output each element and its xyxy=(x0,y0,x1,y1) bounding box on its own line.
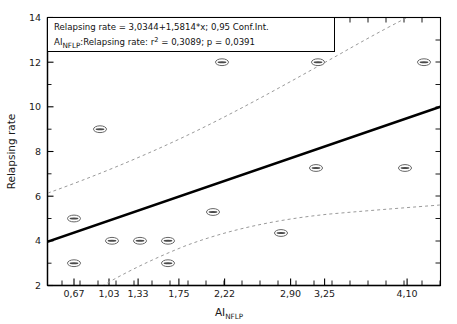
y-tick-label: 4 xyxy=(35,235,41,246)
data-point xyxy=(275,230,288,237)
x-tick-label: 0,67 xyxy=(63,288,84,299)
x-tick-label: 3,25 xyxy=(314,288,335,299)
y-axis-title: Relapsing rate xyxy=(5,114,17,190)
annotation-equation: Relapsing rate = 3,0344+1,5814*x; 0,95 C… xyxy=(54,22,269,32)
data-point xyxy=(207,209,220,216)
data-point xyxy=(312,59,325,66)
x-axis-title-base: AI xyxy=(215,306,225,318)
data-point xyxy=(68,215,81,222)
y-tick-label: 2 xyxy=(35,280,41,291)
y-tick-label: 12 xyxy=(29,57,41,68)
data-point xyxy=(399,165,412,172)
x-tick-label: 1,75 xyxy=(168,288,189,299)
scatter-plot-figure: 2 4 6 8 10 12 14 Relapsing rate xyxy=(0,0,457,324)
data-point xyxy=(94,126,107,133)
annotation-stats-rest: :Relapsing rate: r xyxy=(80,37,154,47)
x-tick-label: 1,33 xyxy=(128,288,149,299)
confidence-band-lower xyxy=(92,205,440,292)
x-axis-minor-ticks xyxy=(62,281,440,286)
y-tick-label: 10 xyxy=(29,101,41,112)
x-tick-label: 2,22 xyxy=(214,288,235,299)
x-tick-label: 1,03 xyxy=(98,288,119,299)
data-point xyxy=(106,237,119,244)
annotation-stats-prefix: AI xyxy=(54,37,62,47)
data-points xyxy=(68,59,431,267)
y-tick-label: 6 xyxy=(35,191,41,202)
y-tick-label: 8 xyxy=(35,146,41,157)
data-point xyxy=(162,260,175,267)
data-point xyxy=(162,237,175,244)
x-axis-title-subscript: NFLP xyxy=(225,312,244,321)
chart-svg: 2 4 6 8 10 12 14 Relapsing rate xyxy=(0,0,457,324)
plot-frame xyxy=(48,18,441,286)
right-frame-ticks xyxy=(436,40,441,263)
data-point xyxy=(216,59,229,66)
data-point xyxy=(68,260,81,267)
y-axis-tick-labels: 2 4 6 8 10 12 14 xyxy=(29,12,41,291)
data-point xyxy=(310,165,323,172)
x-axis-tick-labels: 0,67 1,03 1,33 1,75 2,22 2,90 3,25 4,10 xyxy=(63,288,417,299)
x-tick-label: 2,90 xyxy=(280,288,301,299)
data-point xyxy=(134,237,147,244)
regression-line xyxy=(48,107,441,242)
annotation-stats-subscript: NFLP xyxy=(62,41,81,50)
annotation-stats-tail: = 0,3089; p = 0,0391 xyxy=(158,37,255,47)
x-tick-label: 4,10 xyxy=(397,288,418,299)
x-axis-major-ticks xyxy=(74,279,407,286)
y-tick-label: 14 xyxy=(29,12,41,23)
x-axis-title: AINFLP xyxy=(215,306,244,321)
data-point xyxy=(418,59,431,66)
y-axis-ticks xyxy=(48,18,54,286)
